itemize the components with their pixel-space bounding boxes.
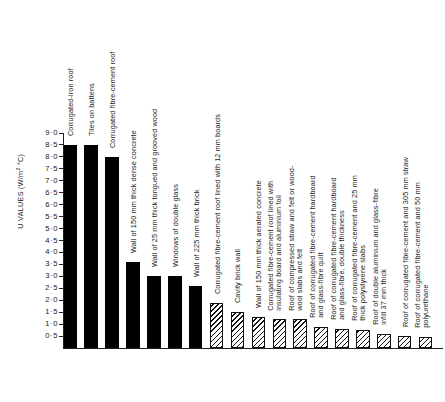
bar-category-label: Cavity brick wall	[233, 249, 242, 303]
y-axis-tick-label: 0·5	[45, 331, 58, 341]
bar-group: Corrugated fibre-cement roof lined with …	[273, 12, 287, 348]
y-axis-label: U VALUES (W/m2 °C)	[15, 126, 25, 256]
bar[interactable]	[84, 145, 98, 348]
bar[interactable]	[252, 317, 266, 348]
bar-group: Corrugated fibre-cement roof lined with …	[210, 12, 224, 348]
y-axis-tick-label: 1·0	[45, 319, 58, 329]
bar[interactable]	[210, 303, 224, 348]
bar[interactable]	[105, 157, 119, 348]
bar-group: Roof of corrugated fibre-cement and 305 …	[398, 12, 412, 348]
bar-group: Windows of double glass	[168, 12, 182, 348]
bar-group: Roof of compressed straw and felt or woo…	[293, 12, 307, 348]
bar-category-label: Corrugated fibre-cement roof lined with …	[267, 160, 284, 310]
bar-category-label: Wall of 225 mm thick brick	[191, 189, 200, 276]
y-axis-ticks: 9·08·58·07·57·06·56·05·55·04·54·03·53·02…	[28, 128, 64, 352]
bar-category-label: Wall of 25 mm thick tongued and grooved …	[149, 109, 158, 267]
bar-category-label: Roof of corrugated fibre-cement and 305 …	[400, 157, 409, 327]
bar-category-label: Roof of corrugated fibre-cement hardboar…	[330, 170, 347, 320]
y-axis-tick-label: 4·5	[45, 236, 58, 246]
bar-group: Corrugated-iron roof	[64, 12, 78, 348]
bar-group: Roof of corrugated fibre-cement hardboar…	[335, 12, 349, 348]
bar[interactable]	[273, 319, 287, 348]
y-axis-tick-label: 1·5	[45, 307, 58, 317]
bar-group: Wall of 150 mm thick dense concrete	[126, 12, 140, 348]
y-axis-tick-label: 8·0	[45, 152, 58, 162]
bar[interactable]	[189, 286, 203, 348]
bar-group: Wall of 25 mm thick tongued and grooved …	[147, 12, 161, 348]
bar-category-label: Roof of corrugated fibre-cement hardboar…	[309, 168, 326, 318]
bar-category-label: Tiles on battens	[87, 83, 96, 136]
bar-group: Cavity brick wall	[231, 12, 245, 348]
y-axis-tick-label: 6·0	[45, 200, 58, 210]
bar[interactable]	[419, 337, 433, 348]
bar-category-label: Corrugated fibre-cement roof lined with …	[212, 114, 221, 294]
y-axis-tick-label: 6·5	[45, 188, 58, 198]
bar-category-label: Wall of 150 mm thick aerated concrete	[254, 180, 263, 308]
y-axis-tick-label: 9·0	[45, 128, 58, 138]
bar[interactable]	[147, 276, 161, 348]
y-axis-tick-label: 2·0	[45, 295, 58, 305]
plot-area: Corrugated-iron roofTiles on battensCorr…	[63, 12, 445, 348]
bar[interactable]	[126, 262, 140, 348]
bar-group: Wall of 225 mm thick brick	[189, 12, 203, 348]
bar[interactable]	[335, 329, 349, 348]
y-axis-tick-label: 3·5	[45, 259, 58, 269]
bar-category-label: Corrugated-iron roof	[66, 68, 75, 136]
bar[interactable]	[377, 334, 391, 348]
bar-category-label: Roof of compressed straw and felt or woo…	[288, 160, 305, 310]
bar-category-label: Roof of double aluminium and glass-fibre…	[371, 175, 388, 325]
y-axis-tick-label: 4·0	[45, 247, 58, 257]
bar-category-label: Wall of 150 mm thick dense concrete	[128, 130, 137, 253]
bar[interactable]	[314, 327, 328, 349]
bar-group: Roof of double aluminium and glass-fibre…	[377, 12, 391, 348]
chart-figure: U VALUES (W/m2 °C) 9·08·58·07·57·06·56·0…	[0, 0, 445, 402]
bar-group: Wall of 150 mm thick aerated concrete	[252, 12, 266, 348]
bar[interactable]	[231, 312, 245, 348]
bar[interactable]	[168, 276, 182, 348]
y-axis-label-superscript: 2	[15, 167, 21, 170]
y-axis-tick-label: 5·0	[45, 224, 58, 234]
bar-group: Roof of corrugated fibre-cement hardboar…	[314, 12, 328, 348]
bar[interactable]	[398, 336, 412, 348]
bar-category-label: Roof of corrugated fibre-cement and 50 m…	[413, 178, 430, 328]
y-axis-tick-label: 8·5	[45, 140, 58, 150]
bar[interactable]	[293, 319, 307, 348]
bar[interactable]	[356, 330, 370, 348]
y-axis-tick-label: 7·0	[45, 176, 58, 186]
y-axis-tick-label: 7·5	[45, 164, 58, 174]
bar-category-label: Windows of double glass	[170, 184, 179, 267]
bar-group: Corrugated fibre-cement roof	[105, 12, 119, 348]
y-axis-tick-label: 2·5	[45, 283, 58, 293]
x-axis-baseline	[63, 348, 443, 349]
y-axis-tick-label: 5·5	[45, 212, 58, 222]
bar-category-label: Roof of corrugated fibre-cement and 25 m…	[351, 171, 368, 321]
y-axis-tick-label: 3·0	[45, 271, 58, 281]
bar[interactable]	[64, 145, 78, 348]
bar-category-label: Corrugated fibre-cement roof	[108, 51, 117, 148]
bar-group: Roof of corrugated fibre-cement and 25 m…	[356, 12, 370, 348]
bar-group: Tiles on battens	[84, 12, 98, 348]
bar-group: Roof of corrugated fibre-cement and 50 m…	[419, 12, 433, 348]
